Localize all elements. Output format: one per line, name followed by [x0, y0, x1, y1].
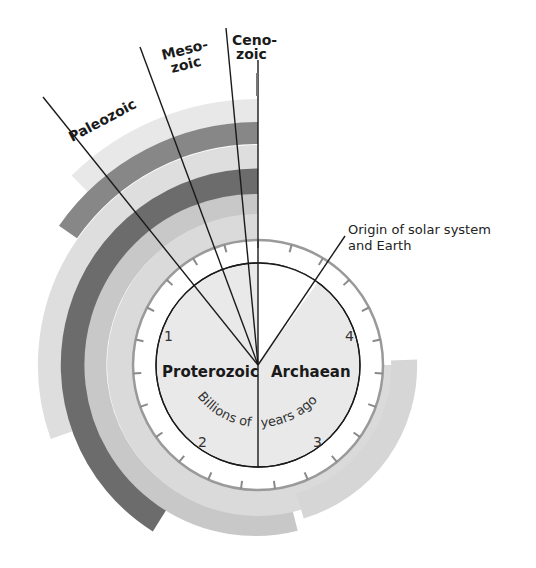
- scale-number-2: 2: [198, 434, 207, 450]
- scale-number-3: 3: [313, 434, 322, 450]
- origin-annotation-line2: and Earth: [348, 238, 411, 253]
- proterozoic-label: Proterozoic: [162, 363, 259, 381]
- scale-number-4: 4: [345, 328, 354, 344]
- scale-number-1: 1: [164, 328, 173, 344]
- ring-tick: [274, 481, 275, 489]
- geologic-time-clock: Paleozoic Meso- zoic Ceno- zoic Proteroz…: [0, 0, 536, 568]
- cenozoic-label-line2: zoic: [236, 46, 267, 62]
- ring-tick: [133, 373, 141, 374]
- ring-tick: [241, 481, 242, 489]
- ring-tick: [375, 373, 383, 374]
- origin-annotation-line1: Origin of solar system: [348, 222, 491, 237]
- archaean-label: Archaean: [271, 363, 351, 381]
